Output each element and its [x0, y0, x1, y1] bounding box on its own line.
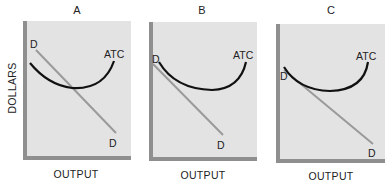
panel-b-atc-label: ATC: [233, 49, 254, 61]
cost-demand-diagram: D D ATC D D ATC D D ATC: [0, 0, 392, 187]
panel-b-demand-label-bottom: D: [217, 139, 225, 151]
panel-a-x-axis: [23, 156, 131, 160]
panel-c-y-axis: [276, 24, 280, 163]
panel-a-demand-label-top: D: [30, 38, 38, 50]
panel-b: D D ATC: [149, 22, 257, 161]
panel-a-atc-label: ATC: [104, 48, 125, 60]
panel-a-y-axis: [23, 21, 27, 160]
panel-c-x-axis-label: OUTPUT: [291, 170, 371, 182]
panel-a-x-axis-label: OUTPUT: [36, 168, 116, 180]
panel-b-x-axis-label: OUTPUT: [163, 169, 243, 181]
panel-c-demand-label-top: D: [280, 70, 288, 82]
panel-a-demand-label-bottom: D: [109, 137, 117, 149]
panel-c-x-axis: [276, 159, 385, 163]
panel-b-background: [149, 22, 257, 159]
panel-b-x-axis: [149, 157, 257, 161]
panel-a: D D ATC: [23, 21, 131, 160]
panel-b-demand-label-top: D: [152, 53, 160, 65]
panel-c: D D ATC: [276, 24, 385, 163]
panel-c-atc-label: ATC: [356, 50, 377, 62]
panel-b-y-axis: [149, 22, 153, 161]
panel-c-demand-label-bottom: D: [368, 147, 376, 159]
